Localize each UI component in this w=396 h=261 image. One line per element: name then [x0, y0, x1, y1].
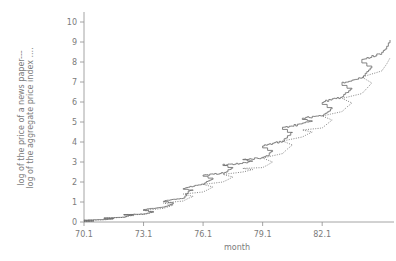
y-tick-label: 1 — [72, 198, 77, 207]
x-tick-label: 79.1 — [254, 230, 272, 239]
y-tick-label: 8 — [72, 58, 77, 67]
line-chart: 012345678910 70.173.176.179.182.1 month … — [0, 0, 396, 261]
y-axis-title-line-1: log of the price of a news paper--- — [17, 50, 26, 186]
series-newspaper-price — [84, 40, 390, 222]
tick-marks — [80, 22, 322, 226]
chart-figure: 012345678910 70.173.176.179.182.1 month … — [0, 0, 396, 261]
y-tick-label: 6 — [72, 98, 77, 107]
y-tick-label: 3 — [72, 158, 77, 167]
data-series — [84, 40, 390, 222]
y-tick-label: 0 — [72, 218, 77, 227]
x-axis-tick-labels: 70.173.176.179.182.1 — [75, 230, 331, 239]
x-tick-label: 70.1 — [75, 230, 93, 239]
x-tick-label: 73.1 — [135, 230, 153, 239]
x-tick-label: 76.1 — [194, 230, 212, 239]
y-axis-tick-labels: 012345678910 — [67, 18, 77, 227]
x-tick-label: 82.1 — [313, 230, 331, 239]
axes — [84, 12, 394, 222]
y-tick-label: 4 — [72, 138, 77, 147]
y-tick-label: 7 — [72, 78, 77, 87]
y-tick-label: 2 — [72, 178, 77, 187]
y-tick-label: 9 — [72, 38, 77, 47]
y-axis-title-line-2: log of the aggregate price index .... — [26, 47, 35, 188]
x-axis-title: month — [224, 243, 250, 252]
y-tick-label: 10 — [67, 18, 77, 27]
y-tick-label: 5 — [72, 118, 77, 127]
